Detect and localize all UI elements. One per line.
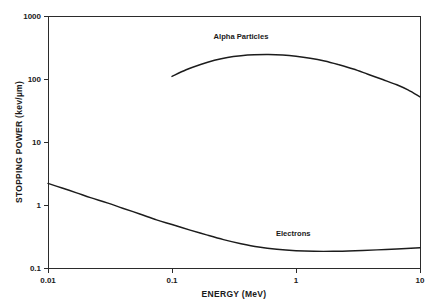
curve-electrons (48, 183, 420, 251)
y-tick-label: 10 (32, 138, 41, 147)
y-axis-ticks: 0.11101001000 (23, 12, 48, 273)
plot-frame (48, 16, 420, 268)
y-tick-label: 0.1 (30, 264, 42, 273)
y-tick-label: 1000 (23, 12, 41, 21)
x-axis-title: ENERGY (MeV) (202, 289, 267, 299)
y-tick-label: 100 (28, 75, 42, 84)
stopping-power-chart: 0.11101001000 0.010.1110 Alpha Particles… (0, 0, 441, 305)
y-axis-title: STOPPING POWER (kev/µm) (14, 81, 24, 203)
y-tick-label: 1 (37, 201, 42, 210)
series-label-electrons: Electrons (276, 229, 311, 238)
x-tick-label: 0.01 (40, 276, 56, 285)
x-tick-label: 1 (294, 276, 299, 285)
curve-alpha-particles (172, 55, 420, 97)
series-label-alpha-particles: Alpha Particles (214, 32, 269, 41)
series-annotations: Alpha ParticlesElectrons (214, 32, 311, 238)
x-tick-label: 0.1 (166, 276, 178, 285)
x-tick-label: 10 (416, 276, 425, 285)
figure-container: 0.11101001000 0.010.1110 Alpha Particles… (0, 0, 441, 305)
data-curves (48, 55, 420, 252)
x-axis-ticks: 0.010.1110 (40, 268, 425, 285)
